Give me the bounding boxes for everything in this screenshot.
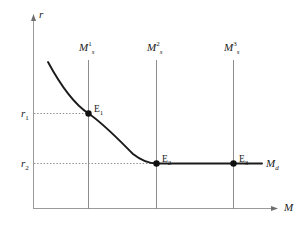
x-axis-label: M [284,202,293,213]
ms3-superscript: 3 [233,40,237,48]
r1-subscript: 1 [25,114,29,122]
ms1-base: M [79,41,88,53]
equilibrium-point-e1 [85,110,91,116]
r2-subscript: 2 [25,164,29,172]
y-tick-label-r1: r1 [21,108,29,122]
equilibrium-point-e2 [153,160,159,166]
y-tick-label-r2: r2 [21,158,29,172]
e2-subscript: 2 [168,159,172,167]
ms2-subscript: s [160,48,163,56]
equilibrium-label-e2: E2 [162,155,171,167]
y-axis-arrowhead [31,14,36,21]
y-axis-label: r [39,9,43,20]
demand-curve-label-md: Md [266,158,279,172]
ms3-subscript: s [237,48,240,56]
equilibrium-point-e3 [230,160,236,166]
x-axis-arrowhead [271,206,278,211]
e1-subscript: 1 [100,109,104,117]
ms1-superscript: 1 [88,40,92,48]
supply-line-label-ms3: M3s [224,41,239,56]
equilibrium-label-e1: E1 [94,105,103,117]
ms2-base: M [147,41,156,53]
supply-line-label-ms2: M2s [147,41,162,56]
supply-line-label-ms1: M1s [79,41,94,56]
money-demand-curve [48,62,262,164]
equilibrium-label-e3: E3 [239,155,248,167]
e3-subscript: 3 [245,159,249,167]
md-subscript: d [275,164,279,172]
ms1-subscript: s [92,48,95,56]
md-base: M [266,157,275,169]
ms3-base: M [224,41,233,53]
ms2-superscript: 2 [156,40,160,48]
chart-canvas [0,0,307,230]
money-market-liquidity-trap-figure: r M M1s M2s M3s r1 r2 E1 E2 E3 Md [0,0,307,230]
